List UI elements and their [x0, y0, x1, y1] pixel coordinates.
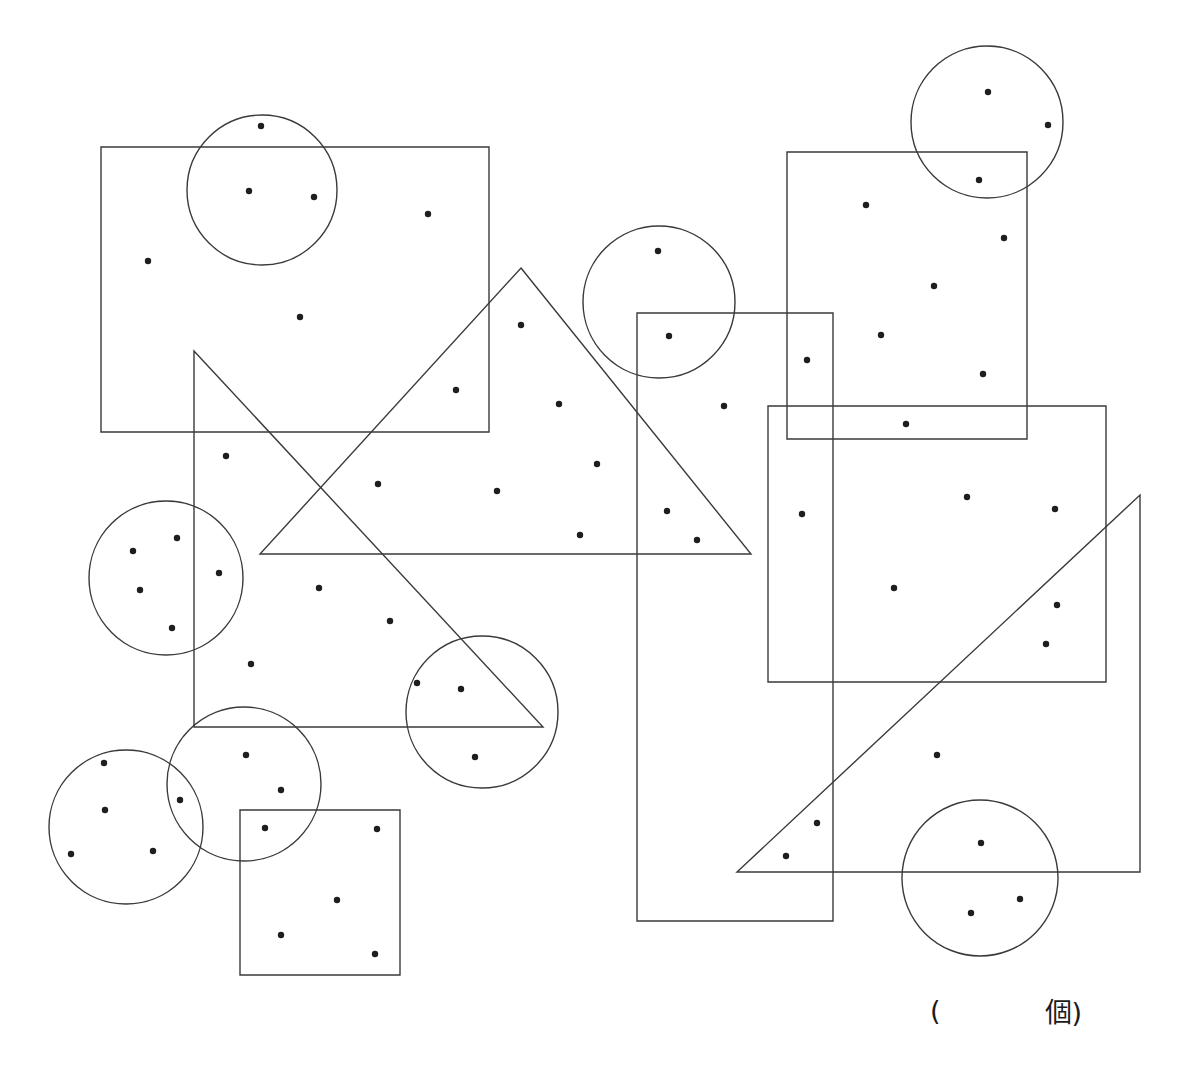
rect-top-left — [101, 147, 489, 432]
dot-mark-59 — [934, 752, 940, 758]
dot-mark-31 — [964, 494, 970, 500]
dot-mark-8 — [1045, 122, 1051, 128]
dot-mark-46 — [472, 754, 478, 760]
dot-mark-27 — [664, 508, 670, 514]
circle-center-lower — [406, 636, 558, 788]
dot-mark-6 — [297, 314, 303, 320]
dot-mark-34 — [174, 535, 180, 541]
dot-mark-10 — [863, 202, 869, 208]
dot-mark-57 — [278, 932, 284, 938]
dot-mark-4 — [425, 211, 431, 217]
dot-mark-40 — [248, 661, 254, 667]
dot-mark-7 — [985, 89, 991, 95]
dot-mark-62 — [978, 840, 984, 846]
answer-line: ( 個) — [930, 985, 1160, 1035]
rect-bottom-left-square — [240, 810, 400, 975]
dot-mark-29 — [694, 537, 700, 543]
dot-mark-43 — [1043, 641, 1049, 647]
dot-mark-64 — [968, 910, 974, 916]
dot-mark-22 — [903, 421, 909, 427]
dot-mark-21 — [721, 403, 727, 409]
dot-mark-1 — [258, 123, 264, 129]
dot-mark-48 — [278, 787, 284, 793]
dot-mark-45 — [458, 686, 464, 692]
dot-mark-47 — [243, 752, 249, 758]
dot-mark-19 — [453, 387, 459, 393]
shapes-layer — [49, 46, 1140, 975]
dot-mark-55 — [374, 826, 380, 832]
dot-mark-33 — [130, 548, 136, 554]
dot-mark-16 — [804, 357, 810, 363]
circle-top-left — [187, 115, 337, 265]
dot-mark-14 — [666, 333, 672, 339]
dot-mark-12 — [931, 283, 937, 289]
dot-mark-9 — [976, 177, 982, 183]
dot-mark-56 — [334, 897, 340, 903]
worksheet-canvas: ( 個) — [0, 0, 1185, 1085]
dot-mark-49 — [177, 797, 183, 803]
dot-mark-20 — [556, 401, 562, 407]
dot-mark-36 — [137, 587, 143, 593]
dot-mark-5 — [145, 258, 151, 264]
dot-mark-53 — [68, 851, 74, 857]
dot-mark-50 — [101, 760, 107, 766]
dot-mark-52 — [150, 848, 156, 854]
dot-mark-63 — [1017, 896, 1023, 902]
answer-unit-and-close-paren: 個) — [1045, 991, 1083, 1030]
dots-layer — [68, 89, 1060, 957]
rect-tall-narrow-center — [637, 313, 833, 921]
answer-blank-field[interactable] — [941, 1010, 1045, 1011]
dot-mark-39 — [387, 618, 393, 624]
triangle-bottom-right — [737, 495, 1140, 872]
dot-mark-60 — [814, 820, 820, 826]
dot-mark-30 — [799, 511, 805, 517]
dot-mark-3 — [311, 194, 317, 200]
dot-mark-41 — [891, 585, 897, 591]
dot-mark-11 — [1001, 235, 1007, 241]
dot-mark-51 — [102, 807, 108, 813]
dot-mark-23 — [223, 453, 229, 459]
dot-mark-18 — [518, 322, 524, 328]
dot-mark-58 — [372, 951, 378, 957]
dot-mark-44 — [414, 680, 420, 686]
rect-top-right — [787, 152, 1027, 439]
dot-mark-26 — [594, 461, 600, 467]
circle-top-right — [911, 46, 1063, 198]
triangle-center-up — [260, 268, 751, 554]
dot-mark-42 — [1054, 602, 1060, 608]
dot-mark-35 — [216, 570, 222, 576]
dot-mark-17 — [980, 371, 986, 377]
answer-open-paren: ( — [930, 995, 941, 1026]
dot-mark-28 — [577, 532, 583, 538]
circle-bottom-right — [902, 800, 1058, 956]
dot-mark-24 — [375, 481, 381, 487]
dot-mark-37 — [169, 625, 175, 631]
dot-mark-61 — [783, 853, 789, 859]
dot-mark-13 — [655, 248, 661, 254]
circle-left-middle — [89, 501, 243, 655]
dot-mark-32 — [1052, 506, 1058, 512]
dot-mark-54 — [262, 825, 268, 831]
triangle-center-down — [194, 351, 543, 727]
figure-svg — [0, 0, 1185, 1085]
dot-mark-2 — [246, 188, 252, 194]
rect-right-large — [768, 406, 1106, 682]
dot-mark-25 — [494, 488, 500, 494]
dot-mark-15 — [878, 332, 884, 338]
dot-mark-38 — [316, 585, 322, 591]
